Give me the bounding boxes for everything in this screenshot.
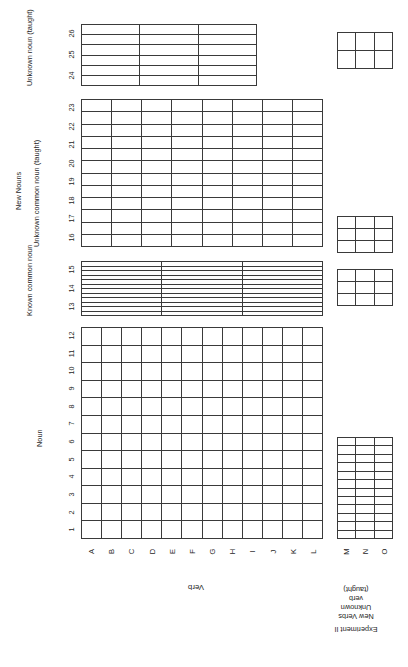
grid-cell[interactable]	[203, 451, 223, 469]
grid-cell[interactable]	[172, 125, 202, 137]
grid-cell[interactable]	[162, 346, 182, 364]
grid-cell[interactable]	[203, 434, 223, 452]
grid-cell[interactable]	[140, 35, 198, 45]
grid-cell[interactable]	[233, 149, 263, 161]
grid-cell[interactable]	[162, 451, 182, 469]
grid-cell[interactable]	[203, 112, 233, 124]
grid-cell[interactable]	[203, 486, 223, 504]
grid-cell[interactable]	[243, 504, 263, 522]
grid-cell[interactable]	[142, 137, 172, 149]
grid-cell[interactable]	[356, 33, 374, 51]
grid-cell[interactable]	[356, 531, 374, 539]
grid-cell[interactable]	[356, 438, 374, 446]
grid-cell[interactable]	[203, 521, 223, 539]
grid-cell[interactable]	[182, 363, 202, 381]
grid-cell[interactable]	[203, 469, 223, 487]
grid-cell[interactable]	[142, 235, 172, 247]
grid-cell[interactable]	[338, 505, 356, 513]
grid-cell[interactable]	[338, 514, 356, 522]
grid-cell[interactable]	[303, 451, 323, 469]
grid-cell[interactable]	[263, 186, 293, 198]
grid-cell[interactable]	[243, 469, 263, 487]
grid-cell[interactable]	[356, 282, 374, 294]
grid-cell[interactable]	[263, 235, 293, 247]
grid-cell[interactable]	[338, 522, 356, 530]
grid-cell[interactable]	[233, 112, 263, 124]
grid-cell[interactable]	[375, 514, 393, 522]
grid-cell[interactable]	[303, 521, 323, 539]
grid-cell[interactable]	[82, 312, 162, 317]
grid-cell[interactable]	[375, 472, 393, 480]
grid-cell[interactable]	[356, 522, 374, 530]
grid-cell[interactable]	[82, 223, 112, 235]
grid-cell[interactable]	[243, 451, 263, 469]
grid-cell[interactable]	[375, 270, 393, 282]
grid-cell[interactable]	[293, 198, 323, 210]
grid-cell[interactable]	[102, 346, 122, 364]
grid-cell[interactable]	[203, 125, 233, 137]
grid-cell[interactable]	[263, 100, 293, 112]
grid-cell[interactable]	[303, 434, 323, 452]
grid-cell[interactable]	[112, 174, 142, 186]
grid-cell[interactable]	[82, 434, 102, 452]
grid-cell[interactable]	[283, 346, 303, 364]
grid-cell[interactable]	[162, 504, 182, 522]
grid-cell[interactable]	[82, 186, 112, 198]
grid-cell[interactable]	[356, 229, 374, 241]
grid-cell[interactable]	[356, 294, 374, 306]
grid-cell[interactable]	[122, 346, 142, 364]
grid-cell[interactable]	[112, 137, 142, 149]
grid-cell[interactable]	[162, 469, 182, 487]
grid-cell[interactable]	[263, 174, 293, 186]
grid-cell[interactable]	[199, 76, 257, 86]
grid-cell[interactable]	[142, 504, 162, 522]
grid-cell[interactable]	[233, 161, 263, 173]
grid-cell[interactable]	[263, 328, 283, 346]
grid-cell[interactable]	[338, 438, 356, 446]
grid-cell[interactable]	[82, 25, 140, 35]
grid-cell[interactable]	[122, 451, 142, 469]
grid-cell[interactable]	[82, 469, 102, 487]
grid-cell[interactable]	[303, 416, 323, 434]
grid-cell[interactable]	[223, 451, 243, 469]
grid-cell[interactable]	[112, 112, 142, 124]
grid-cell[interactable]	[243, 312, 323, 317]
grid-cell[interactable]	[199, 56, 257, 66]
grid-cell[interactable]	[283, 434, 303, 452]
grid-cell[interactable]	[375, 294, 393, 306]
grid-cell[interactable]	[122, 521, 142, 539]
grid-cell[interactable]	[263, 398, 283, 416]
grid-cell[interactable]	[233, 125, 263, 137]
grid-cell[interactable]	[122, 434, 142, 452]
grid-cell[interactable]	[102, 416, 122, 434]
grid-cell[interactable]	[233, 223, 263, 235]
grid-cell[interactable]	[102, 469, 122, 487]
grid-cell[interactable]	[82, 328, 102, 346]
grid-cell[interactable]	[233, 174, 263, 186]
grid-cell[interactable]	[82, 398, 102, 416]
grid-cell[interactable]	[142, 469, 162, 487]
grid-cell[interactable]	[140, 76, 198, 86]
grid-cell[interactable]	[102, 521, 122, 539]
grid-cell[interactable]	[203, 223, 233, 235]
grid-cell[interactable]	[182, 521, 202, 539]
grid-cell[interactable]	[203, 235, 233, 247]
grid-cell[interactable]	[172, 174, 202, 186]
grid-cell[interactable]	[182, 346, 202, 364]
grid-cell[interactable]	[162, 328, 182, 346]
grid-cell[interactable]	[375, 531, 393, 539]
grid-cell[interactable]	[243, 363, 263, 381]
grid-cell[interactable]	[263, 137, 293, 149]
grid-cell[interactable]	[338, 455, 356, 463]
grid-cell[interactable]	[182, 451, 202, 469]
grid-cell[interactable]	[263, 198, 293, 210]
grid-cell[interactable]	[102, 328, 122, 346]
grid-cell[interactable]	[293, 112, 323, 124]
grid-cell[interactable]	[122, 381, 142, 399]
grid-cell[interactable]	[203, 100, 233, 112]
grid-cell[interactable]	[203, 363, 223, 381]
grid-cell[interactable]	[263, 381, 283, 399]
grid-cell[interactable]	[82, 174, 112, 186]
grid-cell[interactable]	[293, 137, 323, 149]
grid-cell[interactable]	[303, 486, 323, 504]
